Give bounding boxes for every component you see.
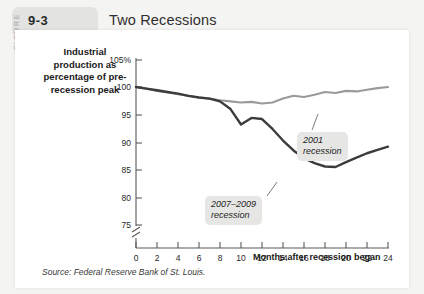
y-axis-ticks [136,60,142,225]
leader-line-2001 [312,114,318,130]
annotation-2001-line2: recession [303,146,342,157]
x-tick-label: 6 [197,253,202,263]
x-tick-label: 8 [218,253,223,263]
x-axis-title: Months after recession began [253,252,381,262]
x-axis-ticks [136,242,388,248]
annotation-2007-2009-recession: 2007–2009recession [205,196,262,225]
chart-panel: Industrial production as percentage of p… [15,30,409,288]
y-tick-label: 90 [122,138,132,148]
x-tick-label: 0 [134,253,139,263]
figure-number-label: 9-3 [28,13,48,28]
source-note: Source: Federal Reserve Bank of St. Loui… [42,267,205,277]
annotation-2007-line1: 2007–2009 [211,199,256,210]
y-tick-label: 100 [117,82,131,92]
y-axis-tick-labels: 105% 100 95 90 85 80 75 [109,55,131,230]
page-title: Two Recessions [109,12,217,28]
leader-line-2007 [267,182,277,196]
y-tick-label: 85 [122,165,132,175]
annotation-2001-line1: 2001 [303,135,342,146]
y-tick-label: 80 [122,193,132,203]
x-tick-label: 2 [155,253,160,263]
x-tick-label: 4 [176,253,181,263]
series-lines [136,87,388,167]
annotation-2007-line2: recession [211,210,256,221]
y-tick-label: 75 [122,220,132,230]
x-tick-label: 10 [236,253,246,263]
annotation-2001-recession: 2001recession [297,132,348,161]
line-series-2007 [136,87,388,167]
x-tick-label: 24 [383,253,393,263]
y-tick-label: 95 [122,110,132,120]
chart-plot: 105% 100 95 90 85 80 75 0 2 [15,30,409,288]
line-series-2001 [136,87,388,104]
y-tick-label: 105% [109,55,131,65]
